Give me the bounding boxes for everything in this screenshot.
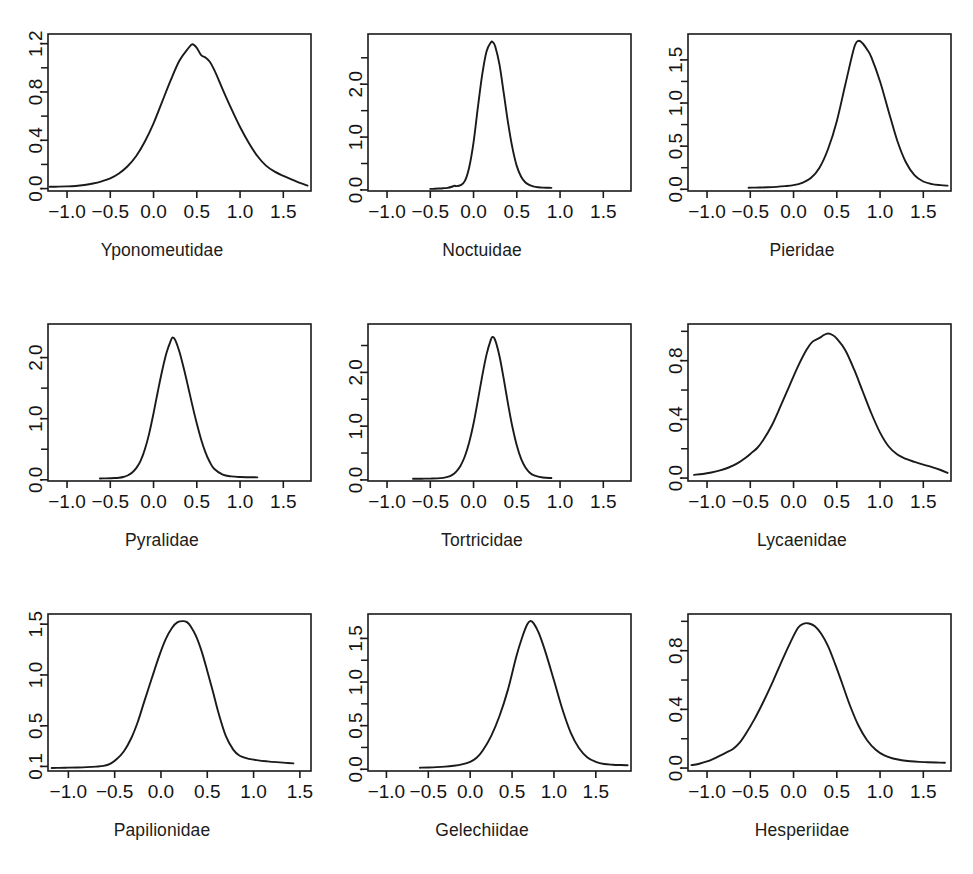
y-tick-label: 1.2	[26, 30, 47, 56]
x-tick-label: −0.5	[732, 201, 770, 222]
y-tick-label: 1.0	[346, 413, 367, 439]
density-curve	[420, 621, 628, 768]
y-tick-label: 1.0	[346, 669, 367, 695]
plot-frame	[48, 34, 311, 191]
y-axis: 0.00.40.8	[666, 331, 689, 491]
y-axis: 0.00.51.01.5	[666, 47, 689, 203]
x-tick-label: 0.0	[460, 491, 486, 512]
x-tick-label: 0.5	[504, 201, 530, 222]
x-tick-label: −1.0	[688, 781, 726, 802]
y-tick-label: 0.0	[26, 467, 47, 493]
density-curve	[749, 41, 948, 188]
x-axis: −1.0−0.50.00.51.01.5	[688, 481, 936, 512]
y-axis: 0.00.40.81.2	[26, 30, 49, 201]
x-tick-label: 1.0	[867, 201, 893, 222]
x-tick-label: −1.0	[48, 491, 86, 512]
x-axis: −1.0−0.50.00.51.01.5	[50, 771, 313, 802]
x-tick-label: 0.0	[148, 781, 174, 802]
x-tick-label: 1.0	[541, 781, 567, 802]
x-axis: −1.0−0.50.00.51.01.5	[688, 771, 936, 802]
panel-title: Tortricidae	[320, 530, 644, 551]
x-tick-label: −0.5	[410, 781, 448, 802]
y-tick-label: 0.5	[346, 712, 367, 738]
x-axis: −1.0−0.50.00.51.01.5	[48, 481, 296, 512]
x-tick-label: −1.0	[368, 491, 406, 512]
density-panel-papilionidae: −1.0−0.50.00.51.01.50.10.51.01.5Papilion…	[0, 588, 324, 874]
x-axis: −1.0−0.50.00.51.01.5	[368, 481, 616, 512]
density-panel-hesperiidae: −1.0−0.50.00.51.01.50.00.40.8Hesperiidae	[640, 588, 964, 874]
plot-frame	[48, 324, 311, 481]
x-tick-label: 0.5	[824, 781, 850, 802]
x-tick-label: 1.0	[227, 201, 253, 222]
density-panel-gelechiidae: −1.0−0.50.00.51.01.50.00.51.01.5Gelechii…	[320, 588, 644, 874]
x-tick-label: 1.5	[270, 201, 296, 222]
x-tick-label: −0.5	[412, 491, 450, 512]
y-tick-label: 2.0	[26, 344, 47, 370]
y-tick-label: 0.5	[26, 713, 47, 739]
y-axis: 0.10.51.01.5	[26, 611, 49, 780]
x-tick-label: 1.5	[590, 201, 616, 222]
plot-frame	[688, 614, 951, 771]
x-tick-label: −0.5	[412, 201, 450, 222]
x-tick-label: 1.5	[583, 781, 609, 802]
x-tick-label: 0.5	[824, 491, 850, 512]
y-tick-label: 0.8	[26, 79, 47, 105]
x-tick-label: 0.0	[780, 491, 806, 512]
plot-frame	[368, 324, 631, 481]
y-tick-label: 1.0	[26, 662, 47, 688]
x-tick-label: 1.5	[910, 781, 936, 802]
y-tick-label: 2.0	[346, 359, 367, 385]
y-tick-label: 0.0	[666, 465, 687, 491]
x-tick-label: −0.5	[732, 781, 770, 802]
plot-frame	[368, 34, 631, 191]
x-tick-label: 1.0	[867, 781, 893, 802]
y-tick-label: 0.0	[666, 755, 687, 781]
x-tick-label: −1.0	[688, 201, 726, 222]
x-axis: −1.0−0.50.00.51.01.5	[368, 771, 609, 802]
x-tick-label: 0.0	[140, 491, 166, 512]
y-tick-label: 0.0	[346, 467, 367, 493]
y-tick-label: 0.0	[346, 177, 367, 203]
density-curve	[100, 337, 257, 478]
y-tick-label: 0.4	[26, 127, 47, 154]
clipped-header-label: · ·	[30, 0, 48, 5]
panel-title: Hesperiidae	[640, 820, 964, 841]
y-tick-label: 0.8	[666, 637, 687, 663]
panel-title: Noctuidae	[320, 240, 644, 261]
y-tick-label: 1.5	[666, 47, 687, 73]
x-tick-label: −1.0	[48, 201, 86, 222]
density-plot-figure: · · −1.0−0.50.00.51.01.50.00.40.81.2Ypon…	[0, 0, 973, 874]
density-curve	[50, 44, 308, 187]
y-tick-label: 0.0	[346, 756, 367, 782]
x-tick-label: −0.5	[92, 201, 130, 222]
density-panel-noctuidae: −1.0−0.50.00.51.01.50.01.02.0Noctuidae	[320, 8, 644, 299]
y-tick-label: 1.0	[26, 405, 47, 431]
panel-title: Papilionidae	[0, 820, 324, 841]
panel-title: Gelechiidae	[320, 820, 644, 841]
x-tick-label: 0.5	[499, 781, 525, 802]
x-tick-label: 1.5	[910, 491, 936, 512]
x-tick-label: 1.5	[287, 781, 313, 802]
x-tick-label: 0.0	[457, 781, 483, 802]
panel-title: Lycaenidae	[640, 530, 964, 551]
panel-title: Yponomeutidae	[0, 240, 324, 261]
density-curve	[691, 623, 944, 765]
density-panel-tortricidae: −1.0−0.50.00.51.01.50.01.02.0Tortricidae	[320, 298, 644, 589]
density-curve	[52, 621, 294, 768]
y-tick-label: 0.4	[666, 406, 687, 433]
y-tick-label: 1.5	[26, 611, 47, 637]
density-panel-yponomeutidae: −1.0−0.50.00.51.01.50.00.40.81.2Yponomeu…	[0, 8, 324, 299]
y-tick-label: 1.5	[346, 625, 367, 651]
x-tick-label: −1.0	[368, 201, 406, 222]
y-tick-label: 0.1	[26, 753, 47, 779]
x-tick-label: 0.5	[184, 201, 210, 222]
x-tick-label: −1.0	[688, 491, 726, 512]
y-axis: 0.01.02.0	[26, 344, 49, 493]
x-tick-label: −1.0	[50, 781, 88, 802]
x-tick-label: 1.0	[227, 491, 253, 512]
y-axis: 0.00.51.01.5	[346, 625, 369, 782]
x-tick-label: 1.0	[547, 201, 573, 222]
y-tick-label: 2.0	[346, 71, 367, 97]
y-tick-label: 0.4	[666, 696, 687, 723]
x-tick-label: 0.0	[140, 201, 166, 222]
